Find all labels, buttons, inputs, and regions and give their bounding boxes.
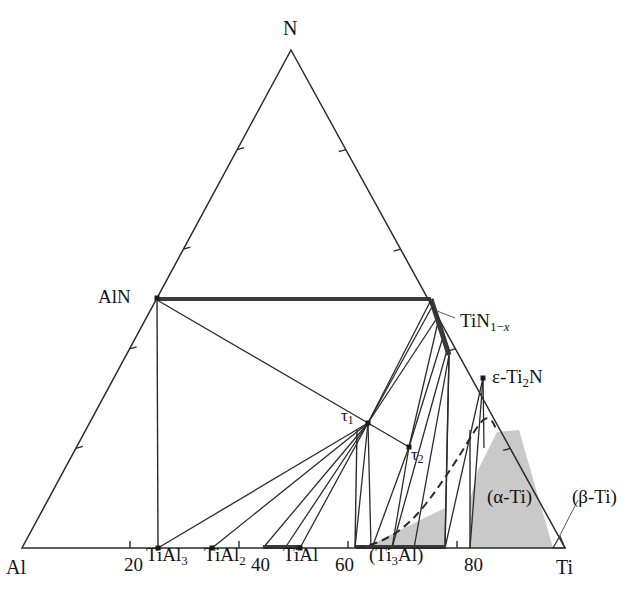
- tie-line-tin-1: [368, 305, 433, 423]
- tie-line-tau1-5: [300, 423, 368, 548]
- phase-label-tau2: τ2: [411, 446, 424, 466]
- axis-tick-label-20: 20: [124, 555, 143, 574]
- node-marker-aln: [155, 296, 160, 301]
- tie-line-tau1-2: [212, 423, 368, 548]
- tie-line-tau1-0: [157, 300, 368, 423]
- axis-tick-label-40: 40: [251, 555, 270, 574]
- phase-label-tial3: TiAl3: [146, 545, 188, 568]
- tie-line-tau1-3: [263, 423, 368, 548]
- phase-field-vertical-boundaries: [157, 298, 470, 548]
- phase-label-beta-ti: (β-Ti): [572, 487, 617, 506]
- tie-line-eti2n-2: [483, 378, 484, 448]
- vline-aln-tial3: [157, 298, 158, 548]
- diagram-canvas: [0, 0, 633, 595]
- phase-label-alpha-ti: (α-Ti): [487, 487, 532, 506]
- phase-label-tial2: TiAl2: [204, 545, 246, 568]
- tie-line-tau1-1: [158, 423, 368, 548]
- corner-label-n: N: [283, 18, 297, 38]
- phase-label-tau1: τ1: [341, 407, 354, 427]
- node-marker-tau1: [366, 421, 371, 426]
- phase-label-aln: AlN: [98, 287, 131, 306]
- right-tick-1: [394, 249, 401, 251]
- vline-ti3al-right: [445, 356, 449, 548]
- corner-label-al: Al: [6, 557, 26, 577]
- tie-lines-from-tau1: [157, 300, 437, 548]
- ternary-phase-diagram: NAlTi 20406080 AlNTiN1−xε-Ti2NTiAl3TiAl2…: [0, 0, 633, 595]
- corner-label-ti: Ti: [556, 557, 573, 577]
- axis-tick-label-60: 60: [335, 555, 354, 574]
- tie-line-tau1-7: [368, 423, 371, 548]
- node-marker-eti2n: [481, 376, 486, 381]
- phase-label-ti3al: (Ti3Al): [369, 545, 423, 568]
- phase-label-tial: TiAl: [283, 545, 318, 564]
- tie-lines-from-tin: [157, 298, 449, 548]
- axis-tick-label-80: 80: [464, 555, 483, 574]
- tie-line-tau1-tau2: [368, 423, 409, 447]
- leader-tin1x: [437, 311, 455, 318]
- phase-label-tin1x: TiN1−x: [460, 311, 509, 334]
- phase-label-eti2n: ε-Ti2N: [492, 367, 543, 390]
- thick-phase-segments: [158, 299, 449, 547]
- right-tick-0: [339, 150, 346, 152]
